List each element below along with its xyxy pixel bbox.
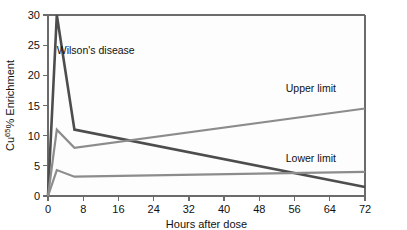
plot-area-background xyxy=(48,15,365,196)
x-tick-label-64: 64 xyxy=(324,203,336,215)
y-tick-label-15: 15 xyxy=(28,100,40,112)
annotation-wilson-s-disease: Wilson's disease xyxy=(57,44,135,56)
annotation-lower-limit: Lower limit xyxy=(286,152,336,164)
x-tick-label-32: 32 xyxy=(183,203,195,215)
x-tick-label-40: 40 xyxy=(218,203,230,215)
x-axis-title: Hours after dose xyxy=(166,218,247,230)
y-tick-label-20: 20 xyxy=(28,69,40,81)
x-tick-label-56: 56 xyxy=(288,203,300,215)
x-tick-label-8: 8 xyxy=(80,203,86,215)
x-tick-label-0: 0 xyxy=(45,203,51,215)
y-tick-label-30: 30 xyxy=(28,9,40,21)
x-tick-label-24: 24 xyxy=(148,203,160,215)
y-tick-label-5: 5 xyxy=(34,160,40,172)
y-tick-label-0: 0 xyxy=(34,190,40,202)
x-tick-label-16: 16 xyxy=(112,203,124,215)
y-axis-title: Cu65% Enrichment xyxy=(3,60,16,151)
x-tick-label-72: 72 xyxy=(359,203,371,215)
line-chart: 051015202530081624324048566472 Wilson's … xyxy=(0,0,407,230)
annotation-upper-limit: Upper limit xyxy=(286,82,336,94)
y-tick-label-10: 10 xyxy=(28,130,40,142)
y-tick-label-25: 25 xyxy=(28,39,40,51)
chart-figure: 051015202530081624324048566472 Wilson's … xyxy=(0,0,407,230)
x-tick-label-48: 48 xyxy=(253,203,265,215)
